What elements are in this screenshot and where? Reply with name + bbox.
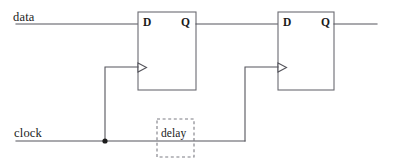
data-input-label: data [13, 11, 35, 24]
circuit-diagram: data clock D Q D Q delay [0, 0, 393, 168]
wire-clock-to-ff1 [105, 67, 138, 141]
clock-junction-dot [102, 138, 107, 143]
diagram-canvas [0, 0, 393, 168]
flipflop-1-q-pin-label: Q [181, 17, 190, 29]
delay-element-label: delay [161, 128, 186, 140]
flipflop-2-q-pin-label: Q [321, 17, 330, 29]
wire-clock-to-ff2 [245, 67, 278, 141]
flipflop-2-d-pin-label: D [283, 17, 291, 29]
flipflop-1-d-pin-label: D [143, 17, 151, 29]
clock-input-label: clock [14, 127, 42, 140]
